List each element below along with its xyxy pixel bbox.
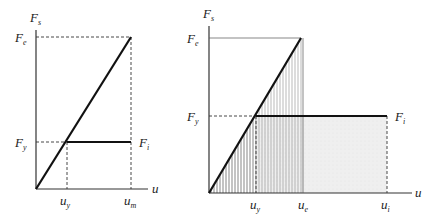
diagram-canvas: Fs Fe Fy Fi u uy um Fs Fe Fy Fi u uy ue [0,0,426,220]
right-ue-label: ue [298,197,309,214]
left-x-axis-label: u [152,181,159,196]
left-y-axis-label: Fs [29,10,41,27]
left-um-label: um [124,193,137,210]
left-fi-label: Fi [138,135,149,152]
right-ui-label: ui [381,197,390,214]
left-elastic-line [36,37,131,189]
right-uy-label: uy [250,197,261,214]
right-y-axis-label: Fs [202,6,214,23]
left-fy-label: Fy [14,135,27,152]
left-fe-label: Fe [14,30,27,47]
left-diagram: Fs Fe Fy Fi u uy um [14,10,159,210]
right-x-axis-label: u [415,185,422,200]
right-diagram: Fs Fe Fy Fi u uy ue ui [186,6,422,214]
right-fi-label: Fi [394,109,405,126]
right-fe-label: Fe [186,31,199,48]
left-uy-label: uy [60,193,71,210]
right-fy-label: Fy [186,109,199,126]
